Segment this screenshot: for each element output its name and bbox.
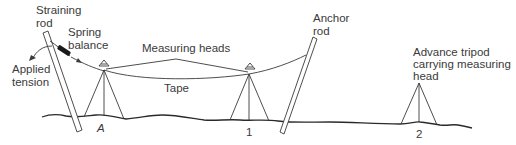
label-advance-tripod-line3: head [413,70,439,82]
label-measuring-heads: Measuring heads [142,42,230,54]
label-straining-rod-line2: rod [36,17,53,29]
spring-balance-arrowhead [76,58,82,63]
label-station-2: 2 [416,128,422,140]
label-spring-balance-line2: balance [68,39,108,51]
measuring-head-1 [245,63,255,69]
tape-a-to-1 [104,70,249,79]
tape-1-to-anchor [249,55,306,74]
label-straining-rod-line1: Straining [36,4,81,16]
tripod-2 [401,83,437,125]
label-advance-tripod-line2: carrying measuring [413,58,511,70]
tripod-1 [230,74,269,121]
label-spring-balance-line1: Spring [68,26,101,38]
label-applied-tension-line1: Applied [12,63,50,75]
label-tape: Tape [164,82,189,94]
balance-to-head-line [71,57,104,71]
ground-line [42,115,472,128]
measuring-heads-leader [106,59,248,72]
label-anchor-rod-line1: Anchor [313,12,350,24]
label-station-1: 1 [246,126,252,138]
anchor-rod [280,37,317,134]
applied-tension-arrowhead [29,55,36,61]
tripod-a [84,70,124,119]
measuring-head-a [99,60,109,66]
label-advance-tripod-line1: Advance tripod [413,46,490,58]
label-applied-tension-line2: tension [12,76,49,88]
label-anchor-rod-line2: rod [313,25,330,37]
label-station-a: A [96,122,105,134]
tape-measurement-diagram: Straining rod Spring balance Applied ten… [0,0,516,145]
